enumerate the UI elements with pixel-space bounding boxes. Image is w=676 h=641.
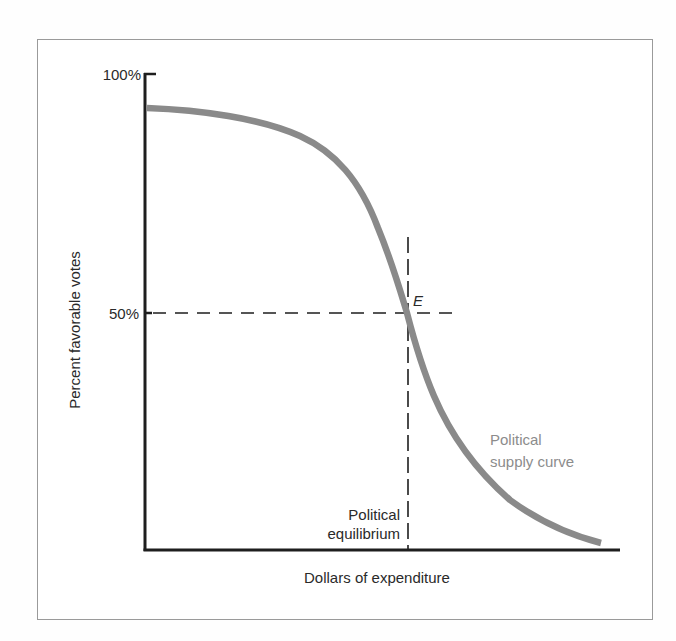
equilibrium-label-line1: Political — [348, 506, 400, 523]
political-supply-curve — [147, 108, 601, 543]
x-axis-title: Dollars of expenditure — [304, 569, 450, 586]
curve-label-line1: Political — [490, 431, 542, 448]
y-tick-label-100: 100% — [103, 66, 141, 83]
y-axis-title: Percent favorable votes — [66, 251, 83, 409]
y-tick-label-50: 50% — [109, 305, 139, 322]
equilibrium-label-line2: equilibrium — [327, 525, 400, 542]
axes — [144, 73, 621, 551]
curve-label-line2: supply curve — [490, 453, 574, 470]
chart: 100% 50% Percent favorable votes Dollars… — [0, 0, 676, 641]
equilibrium-point-label: E — [413, 292, 424, 309]
